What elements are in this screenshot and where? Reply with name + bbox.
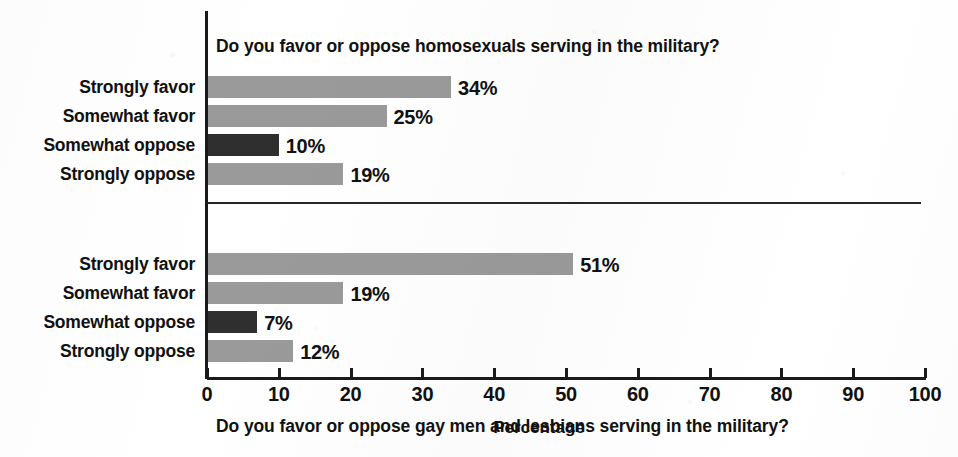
x-axis-tick-30 bbox=[421, 368, 424, 378]
bar-value-label-p0-strongly-oppose: 19% bbox=[350, 164, 389, 187]
x-axis-tick-60 bbox=[637, 368, 640, 378]
category-label-p1-somewhat-oppose: Somewhat oppose bbox=[0, 312, 195, 333]
category-label-p1-strongly-oppose: Strongly oppose bbox=[0, 341, 195, 362]
x-axis-tick-label-90: 90 bbox=[823, 383, 883, 406]
bar-p0-strongly-favor bbox=[207, 76, 451, 98]
category-label-p1-strongly-favor: Strongly favor bbox=[0, 254, 195, 275]
category-label-p0-strongly-favor: Strongly favor bbox=[0, 77, 195, 98]
panel-1-title-suffix: serving in the military? bbox=[595, 416, 789, 436]
bar-chart-figure: 0102030405060708090100 Percentage Do you… bbox=[0, 0, 958, 457]
bar-value-label-p0-strongly-favor: 34% bbox=[458, 77, 497, 100]
x-axis-tick-100 bbox=[924, 368, 927, 378]
x-axis-tick-label-50: 50 bbox=[536, 383, 596, 406]
x-axis-tick-label-10: 10 bbox=[249, 383, 309, 406]
x-axis-tick-50 bbox=[565, 368, 568, 378]
bar-value-label-p0-somewhat-favor: 25% bbox=[394, 106, 433, 129]
panel-0-title-prefix: Do you favor or oppose bbox=[216, 36, 415, 56]
x-axis-tick-90 bbox=[852, 368, 855, 378]
category-label-p0-strongly-oppose: Strongly oppose bbox=[0, 164, 195, 185]
bar-p0-somewhat-favor bbox=[207, 105, 387, 127]
panel-1-title: Do you favor or oppose gay men and lesbi… bbox=[216, 416, 789, 437]
bar-p1-somewhat-favor bbox=[207, 282, 343, 304]
panel-0-title-emphasis: homosexuals bbox=[415, 36, 526, 56]
x-axis-tick-0 bbox=[206, 368, 209, 378]
bar-value-label-p1-strongly-oppose: 12% bbox=[300, 341, 339, 364]
x-axis-tick-label-60: 60 bbox=[608, 383, 668, 406]
panel-1-title-prefix: Do you favor or oppose bbox=[216, 416, 415, 436]
category-label-p0-somewhat-oppose: Somewhat oppose bbox=[0, 135, 195, 156]
panel-1-title-emphasis: gay men and lesbians bbox=[415, 416, 595, 436]
y-axis-line bbox=[205, 11, 208, 379]
category-label-p1-somewhat-favor: Somewhat favor bbox=[0, 283, 195, 304]
bar-value-label-p1-strongly-favor: 51% bbox=[580, 254, 619, 277]
x-axis-tick-10 bbox=[278, 368, 281, 378]
x-axis-tick-label-40: 40 bbox=[464, 383, 524, 406]
bar-p1-strongly-oppose bbox=[207, 340, 293, 362]
x-axis-tick-70 bbox=[709, 368, 712, 378]
panel-0-title-suffix: serving in the military? bbox=[526, 36, 720, 56]
category-label-p0-somewhat-favor: Somewhat favor bbox=[0, 106, 195, 127]
bar-value-label-p0-somewhat-oppose: 10% bbox=[286, 135, 325, 158]
x-axis-tick-label-70: 70 bbox=[680, 383, 740, 406]
bar-p0-somewhat-oppose bbox=[207, 134, 279, 156]
x-axis-tick-label-30: 30 bbox=[392, 383, 452, 406]
panel-0-title: Do you favor or oppose homosexuals servi… bbox=[216, 36, 720, 57]
x-axis-tick-label-20: 20 bbox=[321, 383, 381, 406]
bar-value-label-p1-somewhat-favor: 19% bbox=[350, 283, 389, 306]
bar-p0-strongly-oppose bbox=[207, 163, 343, 185]
x-axis-tick-label-0: 0 bbox=[177, 383, 237, 406]
x-axis-tick-40 bbox=[493, 368, 496, 378]
bar-p1-strongly-favor bbox=[207, 253, 573, 275]
bar-value-label-p1-somewhat-oppose: 7% bbox=[264, 312, 292, 335]
x-axis-tick-80 bbox=[780, 368, 783, 378]
x-axis-tick-20 bbox=[350, 368, 353, 378]
bar-p1-somewhat-oppose bbox=[207, 311, 257, 333]
x-axis-tick-label-100: 100 bbox=[895, 383, 955, 406]
panel-separator-line bbox=[207, 202, 921, 204]
x-axis-tick-label-80: 80 bbox=[751, 383, 811, 406]
